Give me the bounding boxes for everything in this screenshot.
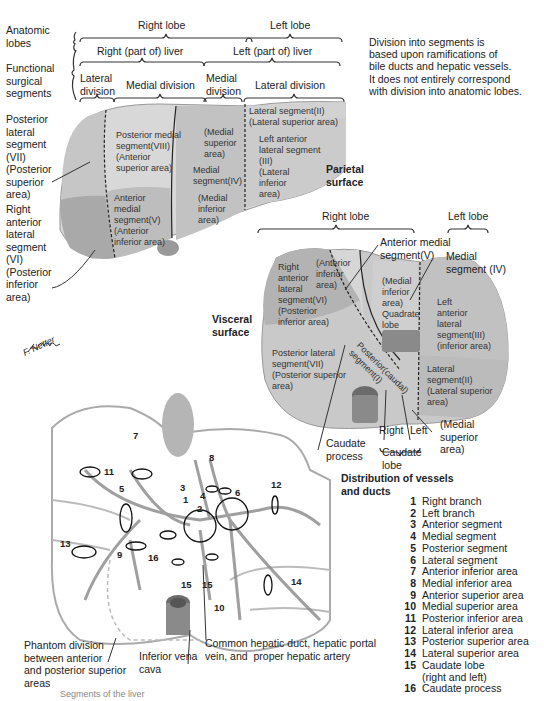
vessel-num-15b: 15 bbox=[202, 579, 213, 592]
left-liver-label: Left (part of) liver bbox=[233, 45, 312, 58]
legend-label: Posterior segment bbox=[422, 543, 507, 555]
vessel-num-6: 6 bbox=[235, 487, 240, 500]
medial-division-left: Medial division bbox=[206, 72, 241, 97]
legend-label: Right branch bbox=[422, 496, 482, 508]
legend-number: 1 bbox=[398, 496, 416, 508]
vessel-num-10: 10 bbox=[214, 602, 225, 615]
segment-note: Division into segments is based upon ram… bbox=[369, 36, 522, 97]
label-seg8: Posterior medial segment(VIII) (Anterior… bbox=[116, 130, 181, 174]
legend-number: 11 bbox=[398, 613, 416, 625]
figure-caption: Segments of the liver bbox=[60, 688, 145, 701]
label-medial-inferior: (Medial inferior area) bbox=[198, 193, 228, 226]
legend-item: 11Posterior inferior area bbox=[398, 613, 529, 625]
label-common-hepatic: Common hepatic duct, hepatic portal vein… bbox=[205, 637, 376, 662]
legend-item: 16Caudate process bbox=[398, 683, 529, 695]
vessel-num-2: 2 bbox=[197, 503, 202, 516]
label-caudate-left: Left bbox=[410, 424, 428, 437]
vessels-title: Distribution of vessels and ducts bbox=[341, 472, 454, 497]
anatomic-lobes-label: Anatomic lobes bbox=[6, 24, 50, 49]
medial-division-right: Medial division bbox=[126, 79, 195, 92]
vessel-num-9: 9 bbox=[117, 549, 122, 562]
legend-number: 15 bbox=[398, 660, 416, 683]
vessel-num-11: 11 bbox=[104, 466, 114, 479]
label-caudate-right: Right bbox=[379, 424, 404, 437]
legend-number: 8 bbox=[398, 578, 416, 590]
left-lobe-label: Left lobe bbox=[270, 19, 310, 32]
legend-item: 15Caudate lobe (right and left) bbox=[398, 660, 529, 683]
label-seg3: Left anterior lateral segment (III) (Lat… bbox=[259, 134, 321, 200]
right-liver-label: Right (part of) liver bbox=[97, 45, 183, 58]
label-caudate-lobe: Caudate lobe bbox=[382, 446, 422, 471]
legend-number: 5 bbox=[398, 543, 416, 555]
legend-label: Posterior inferior area bbox=[422, 613, 523, 625]
vessel-num-8: 8 bbox=[209, 452, 214, 465]
vessel-num-1: 1 bbox=[183, 494, 188, 507]
right-lobe-label: Right lobe bbox=[138, 19, 185, 32]
label-inferior-vena-cava: Inferior vena cava bbox=[139, 650, 197, 675]
label-anterior-inferior: (Anterior inferior area) bbox=[316, 258, 351, 291]
vessel-num-15a: 15 bbox=[181, 579, 192, 592]
vessel-num-7: 7 bbox=[133, 430, 138, 443]
parietal-surface-title: Parietal surface bbox=[326, 163, 364, 188]
label-medial-superior: (Medial superior area) bbox=[204, 127, 237, 160]
visceral-surface-title: Visceral surface bbox=[212, 313, 252, 338]
vessel-num-13: 13 bbox=[60, 538, 71, 551]
vessel-num-4: 4 bbox=[200, 490, 205, 503]
legend-number: 16 bbox=[398, 683, 416, 695]
legend-label: Caudate process bbox=[422, 683, 501, 695]
functional-segments-label: Functional surgical segments bbox=[6, 62, 54, 100]
label-anterior-medial-seg5: Anterior medial segment(V) bbox=[380, 236, 451, 261]
legend-label: Medial inferior area bbox=[422, 578, 512, 590]
label-visceral-seg2: Lateral segment(II) (Lateral superior ar… bbox=[427, 364, 493, 408]
label-phantom-division: Phantom division between anterior and po… bbox=[24, 639, 126, 689]
legend-item: 1Right branch bbox=[398, 496, 529, 508]
label-visceral-seg3: Left anterior lateral segment(III) (infe… bbox=[437, 297, 491, 352]
legend-item: 5Posterior segment bbox=[398, 543, 529, 555]
visceral-right-lobe: Right lobe bbox=[322, 210, 369, 223]
vessel-legend: 1Right branch2Left branch3Anterior segme… bbox=[398, 496, 529, 695]
lateral-division-right: Lateral division bbox=[80, 72, 115, 97]
lateral-division-left: Lateral division bbox=[255, 79, 325, 92]
label-medial-seg4: Medial segment (IV) bbox=[446, 250, 506, 275]
vessel-num-5: 5 bbox=[119, 483, 124, 496]
visceral-left-lobe: Left lobe bbox=[448, 210, 488, 223]
legend-item: 8Medial inferior area bbox=[398, 578, 529, 590]
label-visceral-seg7: Posterior lateral segment(VII) (Posterio… bbox=[272, 348, 346, 392]
vessel-num-16: 16 bbox=[148, 552, 159, 565]
label-seg5: Anterior medial segment(V) (Anterior inf… bbox=[114, 193, 165, 248]
label-caudate-process: Caudate process bbox=[326, 437, 366, 462]
label-posterior-lateral-seg7: Posterior lateral segment (VII) (Posteri… bbox=[6, 113, 52, 201]
label-seg4: Medial segment(IV) bbox=[193, 165, 242, 187]
label-medial-superior-visceral: (Medial superior area) bbox=[440, 418, 478, 456]
label-quadrate-lobe: (Medial inferior area) Quadrate lobe bbox=[382, 276, 420, 331]
vessel-num-3: 3 bbox=[180, 482, 185, 495]
vessel-num-12: 12 bbox=[271, 479, 282, 492]
vessel-num-14: 14 bbox=[291, 576, 302, 589]
vessel-diagram bbox=[52, 393, 330, 664]
label-seg2: Lateral segment(II) (Lateral superior ar… bbox=[249, 106, 338, 128]
label-right-anterior-lateral-seg6: Right anterior lateral segment (VI) (Pos… bbox=[6, 203, 52, 303]
legend-label: Caudate lobe (right and left) bbox=[422, 660, 487, 683]
